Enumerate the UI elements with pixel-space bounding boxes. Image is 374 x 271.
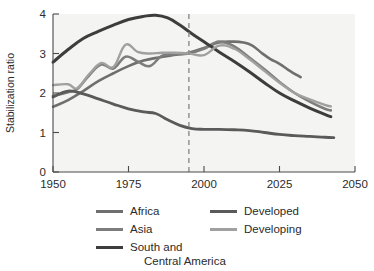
legend-item-developed[interactable]: Developed xyxy=(210,204,299,218)
chart-figure: 1950197520002025205001234 Stabilization … xyxy=(0,0,374,271)
y-tick-label-2: 2 xyxy=(40,87,46,99)
plot-background xyxy=(53,14,355,172)
y-tick-label-4: 4 xyxy=(40,8,47,20)
legend-swatch-developed xyxy=(210,210,237,213)
y-tick-label-1: 1 xyxy=(40,127,46,139)
legend-item-developing[interactable]: Developing xyxy=(210,222,302,236)
legend-label-line2: Central America xyxy=(130,254,226,268)
x-tick-label-2050: 2050 xyxy=(342,178,368,190)
y-axis-title: Stabilization ratio xyxy=(4,53,16,133)
legend-label-developed: Developed xyxy=(244,204,299,218)
x-tick-label-2000: 2000 xyxy=(191,178,217,190)
legend-item-south-and-central-america[interactable]: South andCentral America xyxy=(96,240,226,268)
legend-item-africa[interactable]: Africa xyxy=(96,204,159,218)
line-chart-svg: 1950197520002025205001234 Stabilization … xyxy=(0,0,374,196)
legend-swatch-south-and-central-america xyxy=(96,246,123,249)
chart-legend: Africa Asia South andCentral America Dev… xyxy=(0,196,374,271)
plot-area: 1950197520002025205001234 Stabilization … xyxy=(0,0,374,196)
x-tick-label-1975: 1975 xyxy=(116,178,142,190)
legend-label-line1: South and xyxy=(130,241,182,253)
x-tick-label-1950: 1950 xyxy=(40,178,66,190)
legend-label-south-and-central-america: South andCentral America xyxy=(130,240,226,268)
legend-label-africa: Africa xyxy=(130,204,159,218)
y-tick-label-3: 3 xyxy=(40,48,46,60)
legend-item-asia[interactable]: Asia xyxy=(96,222,152,236)
legend-swatch-africa xyxy=(96,210,123,213)
x-tick-label-2025: 2025 xyxy=(267,178,293,190)
legend-label-developing: Developing xyxy=(244,222,302,236)
y-tick-label-0: 0 xyxy=(40,166,46,178)
legend-label-asia: Asia xyxy=(130,222,152,236)
legend-swatch-developing xyxy=(210,228,237,231)
legend-swatch-asia xyxy=(96,228,123,231)
